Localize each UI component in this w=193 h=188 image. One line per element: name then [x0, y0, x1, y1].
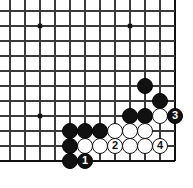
star-point [38, 24, 42, 28]
go-diagram: 3241 [0, 0, 193, 188]
move-number-label: 3 [172, 110, 178, 121]
move-number-label: 2 [112, 140, 118, 151]
star-point [38, 114, 42, 118]
move-number-label: 1 [82, 155, 88, 166]
star-point [128, 24, 132, 28]
move-number-label: 4 [157, 140, 163, 151]
